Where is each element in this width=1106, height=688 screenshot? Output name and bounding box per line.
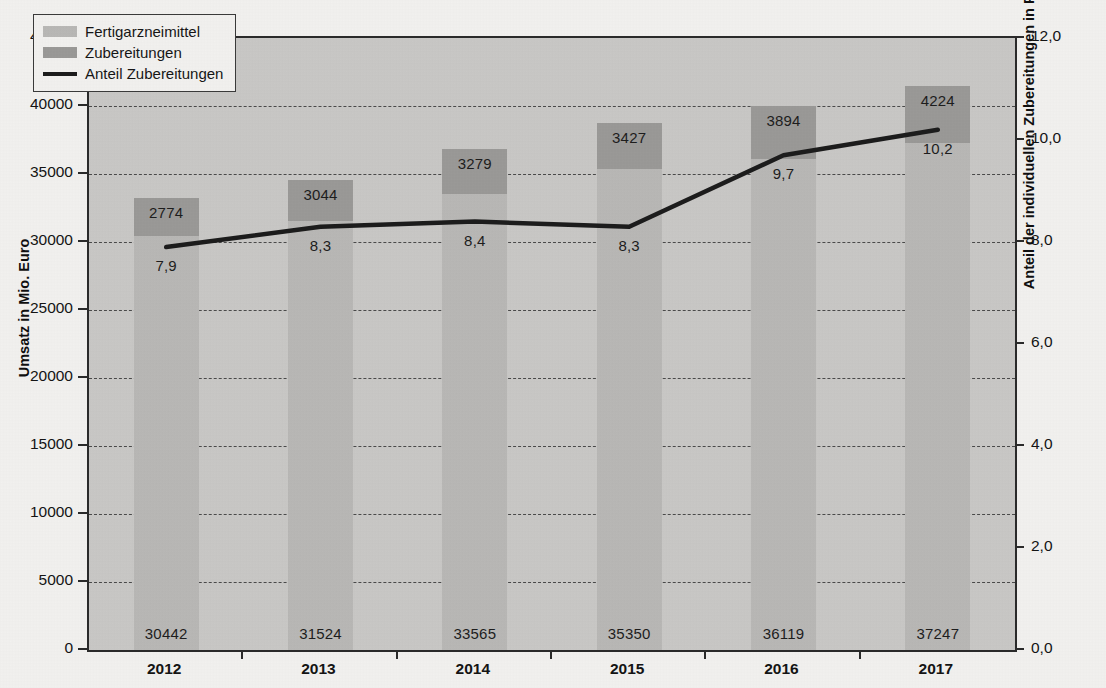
- y-axis-left-tick-label: 15000: [7, 435, 73, 453]
- y-axis-left-tickmark: [78, 580, 87, 582]
- y-axis-left: 0500010000150002000025000300003500040000…: [0, 0, 87, 688]
- x-axis-tick-label: 2015: [567, 660, 687, 678]
- y-axis-left-tickmark: [78, 308, 87, 310]
- y-axis-right-tick-label: 2,0: [1031, 537, 1093, 555]
- line-value-label: 8,3: [594, 237, 664, 254]
- chart-legend: FertigarzneimittelZubereitungenAnteil Zu…: [33, 14, 236, 92]
- line-series-anteil-zubereitungen: [89, 38, 1015, 650]
- legend-swatch-icon: [43, 26, 77, 37]
- y-axis-left-tickmark: [78, 376, 87, 378]
- y-axis-left-tickmark: [78, 648, 87, 650]
- y-axis-left-tickmark: [78, 172, 87, 174]
- chart-page: 2774304423044315243279335653427353503894…: [0, 0, 1106, 688]
- y-axis-left-title: Umsatz in Mio. Euro: [16, 198, 32, 418]
- y-axis-left-tick-label: 5000: [7, 571, 73, 589]
- plot-area: 2774304423044315243279335653427353503894…: [87, 36, 1017, 652]
- legend-item: Zubereitungen: [43, 42, 223, 63]
- legend-item: Anteil Zubereitungen: [43, 63, 223, 84]
- y-axis-right-tickmark: [1015, 342, 1024, 344]
- legend-line-marker-icon: [43, 72, 77, 76]
- y-axis-right-tickmark: [1015, 546, 1024, 548]
- y-axis-left-tickmark: [78, 444, 87, 446]
- y-axis-left-tickmark: [78, 240, 87, 242]
- y-axis-right-tick-label: 6,0: [1031, 333, 1093, 351]
- y-axis-right-tick-label: 4,0: [1031, 435, 1093, 453]
- legend-item-label: Anteil Zubereitungen: [85, 65, 223, 82]
- y-axis-right-tickmark: [1015, 648, 1024, 650]
- y-axis-left-tickmark: [78, 104, 87, 106]
- line-value-label: 10,2: [903, 140, 973, 157]
- legend-item-label: Zubereitungen: [85, 44, 182, 61]
- y-axis-right-tick-label: 0,0: [1031, 639, 1093, 657]
- y-axis-left-tick-label: 40000: [7, 95, 73, 113]
- y-axis-right-title: Anteil der individuellen Zubereitungen i…: [1021, 0, 1037, 330]
- y-axis-right-tick-label: 12,0: [1031, 27, 1093, 45]
- y-axis-left-tick-label: 0: [7, 639, 73, 657]
- line-value-label: 9,7: [749, 165, 819, 182]
- line-value-label: 7,9: [131, 257, 201, 274]
- y-axis-left-tickmark: [78, 512, 87, 514]
- y-axis-left-tick-label: 10000: [7, 503, 73, 521]
- legend-item-label: Fertigarzneimittel: [85, 23, 200, 40]
- y-axis-right-tickmark: [1015, 444, 1024, 446]
- x-axis-tick-label: 2012: [104, 660, 224, 678]
- x-axis-tick-label: 2013: [259, 660, 379, 678]
- x-axis-tick-label: 2017: [876, 660, 996, 678]
- y-axis-right-tick-label: 10,0: [1031, 129, 1093, 147]
- legend-swatch-icon: [43, 47, 77, 58]
- x-axis-tick-label: 2014: [413, 660, 533, 678]
- x-axis-tick-label: 2016: [722, 660, 842, 678]
- y-axis-right-tick-label: 8,0: [1031, 231, 1093, 249]
- line-value-label: 8,3: [286, 237, 356, 254]
- legend-item: Fertigarzneimittel: [43, 21, 223, 42]
- y-axis-left-tick-label: 35000: [7, 163, 73, 181]
- line-value-label: 8,4: [440, 232, 510, 249]
